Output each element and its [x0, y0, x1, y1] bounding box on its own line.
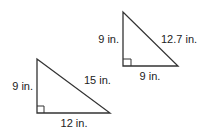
right-angle-marker-left: [37, 106, 44, 113]
triangle-left-shape: [37, 59, 110, 113]
label-top-horizontal: 9 in.: [140, 70, 161, 82]
triangles-diagram: 9 in. 15 in. 12 in. 9 in. 12.7 in. 9 in.: [0, 0, 205, 137]
right-angle-marker-top: [123, 59, 131, 66]
triangle-left: 9 in. 15 in. 12 in.: [12, 59, 111, 129]
label-left-hypotenuse: 15 in.: [84, 74, 111, 86]
label-left-horizontal: 12 in.: [61, 117, 88, 129]
label-top-vertical: 9 in.: [98, 33, 119, 45]
label-left-vertical: 9 in.: [12, 80, 33, 92]
label-top-hypotenuse: 12.7 in.: [161, 33, 197, 45]
triangle-top: 9 in. 12.7 in. 9 in.: [98, 12, 197, 82]
